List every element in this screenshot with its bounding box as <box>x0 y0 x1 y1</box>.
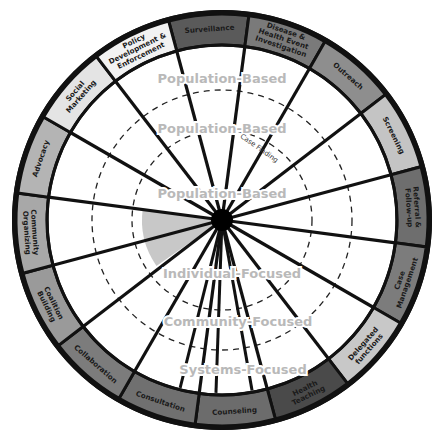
level-label: Population-Based <box>157 71 286 86</box>
segment-label: Referral &Follow-up <box>403 186 423 229</box>
center-hub <box>211 209 233 231</box>
level-label: Population-Based <box>157 186 286 201</box>
segment-label: CommunityOrganizing <box>21 209 41 256</box>
level-label: Systems-Focused <box>179 362 306 377</box>
level-label: Individual-Focused <box>163 266 301 281</box>
level-label: Population-Based <box>157 121 286 136</box>
public-health-intervention-wheel: SurveillanceDisease &Health EventInvesti… <box>0 0 443 441</box>
level-label: Community-Focused <box>164 314 313 329</box>
